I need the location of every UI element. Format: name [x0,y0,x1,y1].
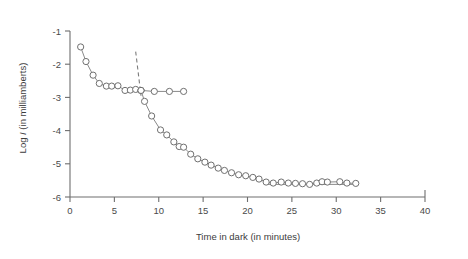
y-tick-label: -5 [53,158,61,169]
data-point-marker [149,113,155,119]
data-point-marker [181,88,187,94]
data-point-marker [157,127,163,133]
data-point-marker [263,179,269,185]
data-point-marker [195,156,201,162]
data-point-marker [307,181,313,187]
data-point-marker [344,180,350,186]
data-point-marker [278,179,284,185]
series-lines-group [81,47,356,184]
data-point-marker [337,179,343,185]
data-point-marker [215,165,221,171]
data-point-marker [292,180,298,186]
axes-group [70,31,425,197]
x-tick-label: 5 [112,205,117,216]
x-tick-label: 0 [67,205,72,216]
x-tick-label: 30 [331,205,342,216]
data-point-marker [353,180,359,186]
x-tick-label: 15 [198,205,209,216]
data-point-marker [78,44,84,50]
series-markers-group [78,44,359,188]
y-axis-title-suffix: (in milliamberts) [17,63,28,133]
data-point-marker [221,167,227,173]
data-point-marker [166,88,172,94]
y-tick-label: -6 [53,192,61,203]
data-point-marker [90,72,96,78]
y-axis-title-prefix: Log [17,135,28,154]
data-point-marker [256,176,262,182]
data-point-marker [299,181,305,187]
chart-canvas: 0510152025303540-1-2-3-4-5-6 Time in dar… [0,0,468,259]
series-line [141,90,356,184]
data-point-marker [188,151,194,157]
x-axis-title: Time in dark (in minutes) [196,231,300,242]
data-point-marker [324,179,330,185]
y-tick-label: -1 [53,26,61,37]
y-axis-title: Log I (in milliamberts) [17,63,28,154]
data-point-marker [243,173,249,179]
data-point-marker [208,162,214,168]
data-point-marker [270,180,276,186]
dark-adaptation-chart: 0510152025303540-1-2-3-4-5-6 Time in dar… [0,0,468,259]
x-tick-label: 25 [287,205,298,216]
y-tick-label: -2 [53,59,61,70]
tick-labels-group: 0510152025303540-1-2-3-4-5-6 [53,26,431,217]
data-point-marker [83,58,89,64]
data-point-marker [181,144,187,150]
y-tick-label: -4 [53,125,61,136]
x-tick-label: 40 [420,205,431,216]
data-point-marker [202,159,208,165]
data-point-marker [109,83,115,89]
data-point-marker [96,80,102,86]
data-point-marker [250,174,256,180]
data-point-marker [115,83,121,89]
data-point-marker [151,88,157,94]
x-tick-label: 10 [153,205,164,216]
data-point-marker [141,98,147,104]
data-point-marker [236,172,242,178]
x-tick-label: 20 [242,205,253,216]
data-point-marker [138,87,144,93]
y-tick-label: -3 [53,92,61,103]
data-point-marker [285,180,291,186]
data-point-marker [171,139,177,145]
x-tick-label: 35 [375,205,386,216]
series-line [141,90,184,91]
data-point-marker [228,170,234,176]
data-point-marker [164,132,170,138]
